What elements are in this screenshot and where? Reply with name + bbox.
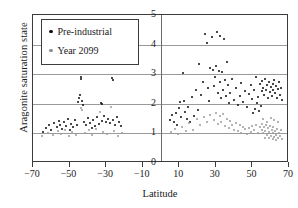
data-point bbox=[63, 121, 65, 123]
data-point bbox=[200, 94, 202, 96]
data-point bbox=[61, 128, 63, 130]
data-point bbox=[72, 126, 74, 128]
data-point bbox=[277, 121, 279, 123]
data-point bbox=[228, 102, 230, 104]
data-point bbox=[98, 123, 100, 125]
data-point bbox=[253, 129, 255, 131]
x-axis-tick bbox=[32, 162, 33, 167]
data-point bbox=[267, 97, 269, 99]
data-point bbox=[91, 134, 93, 136]
data-point bbox=[226, 118, 228, 120]
data-point bbox=[112, 119, 114, 121]
data-point bbox=[202, 81, 204, 83]
y-axis-tick-label: 0 bbox=[138, 156, 156, 167]
data-point bbox=[248, 127, 250, 129]
data-point bbox=[275, 85, 277, 87]
data-point bbox=[101, 103, 103, 105]
data-point bbox=[231, 124, 233, 126]
data-point bbox=[273, 79, 275, 81]
legend: Pre-industrial Year 2099 bbox=[41, 19, 139, 65]
data-point bbox=[273, 119, 275, 121]
data-point bbox=[81, 109, 83, 111]
data-point bbox=[107, 118, 109, 120]
y-axis-tick-label: 4 bbox=[138, 38, 156, 49]
data-point bbox=[42, 131, 44, 133]
data-point bbox=[79, 94, 81, 96]
data-point bbox=[209, 114, 211, 116]
data-point bbox=[80, 78, 82, 80]
data-point bbox=[254, 108, 256, 110]
data-point bbox=[225, 95, 227, 97]
data-point bbox=[226, 61, 228, 63]
data-point bbox=[96, 116, 98, 118]
data-point bbox=[270, 86, 272, 88]
data-point bbox=[275, 134, 277, 136]
data-point bbox=[264, 130, 266, 132]
data-point bbox=[266, 134, 268, 136]
data-point bbox=[267, 127, 269, 129]
data-point bbox=[213, 85, 215, 87]
legend-marker-dot-icon bbox=[49, 49, 53, 53]
data-point bbox=[180, 116, 182, 118]
data-point bbox=[181, 126, 183, 128]
data-point bbox=[217, 123, 219, 125]
data-point bbox=[280, 87, 282, 89]
data-point bbox=[215, 65, 217, 67]
data-point bbox=[228, 127, 230, 129]
data-point bbox=[52, 134, 54, 136]
data-point bbox=[272, 138, 274, 140]
data-point bbox=[81, 100, 83, 102]
data-point bbox=[112, 79, 114, 81]
data-point bbox=[58, 120, 60, 122]
data-point bbox=[224, 125, 226, 127]
data-point bbox=[195, 89, 197, 91]
data-point bbox=[262, 118, 264, 120]
data-point bbox=[193, 115, 195, 117]
data-point bbox=[270, 117, 272, 119]
data-point bbox=[120, 125, 122, 127]
x-axis-tick-label: −50 bbox=[49, 168, 89, 179]
data-point bbox=[109, 122, 111, 124]
y-axis-tick-label: 1 bbox=[138, 126, 156, 137]
x-axis-tick bbox=[178, 162, 179, 167]
data-point bbox=[171, 114, 173, 116]
data-point bbox=[69, 129, 71, 131]
data-point bbox=[268, 137, 270, 139]
data-point bbox=[116, 116, 118, 118]
data-point bbox=[270, 135, 272, 137]
data-point bbox=[48, 124, 50, 126]
data-point bbox=[266, 121, 268, 123]
data-point bbox=[262, 87, 264, 89]
data-point bbox=[214, 76, 216, 78]
data-point bbox=[176, 124, 178, 126]
data-point bbox=[277, 137, 279, 139]
data-point bbox=[278, 132, 280, 134]
data-point bbox=[240, 82, 242, 84]
x-axis-tick bbox=[215, 162, 216, 167]
data-point bbox=[88, 129, 90, 131]
x-axis-tick-label: 70 bbox=[268, 168, 298, 179]
data-point bbox=[113, 130, 115, 132]
data-point bbox=[268, 131, 270, 133]
data-point bbox=[272, 126, 274, 128]
data-point bbox=[277, 88, 279, 90]
data-point bbox=[192, 129, 194, 131]
data-point bbox=[92, 119, 94, 121]
x-axis-tick bbox=[288, 162, 289, 167]
data-point bbox=[87, 117, 89, 119]
y-axis-tick-label: 2 bbox=[138, 97, 156, 108]
gridline-horizontal bbox=[33, 74, 287, 75]
data-point bbox=[47, 132, 49, 134]
data-point bbox=[266, 84, 268, 86]
data-point bbox=[95, 128, 97, 130]
data-point bbox=[41, 135, 43, 137]
y-axis-title: Aragonite saturation state bbox=[18, 8, 29, 148]
data-point bbox=[237, 104, 239, 106]
data-point bbox=[219, 35, 221, 37]
data-point bbox=[56, 126, 58, 128]
data-point bbox=[244, 90, 246, 92]
y-axis-tick-label: 5 bbox=[138, 8, 156, 19]
data-point bbox=[186, 118, 188, 120]
gridline-horizontal bbox=[33, 133, 287, 134]
data-point bbox=[216, 31, 218, 33]
